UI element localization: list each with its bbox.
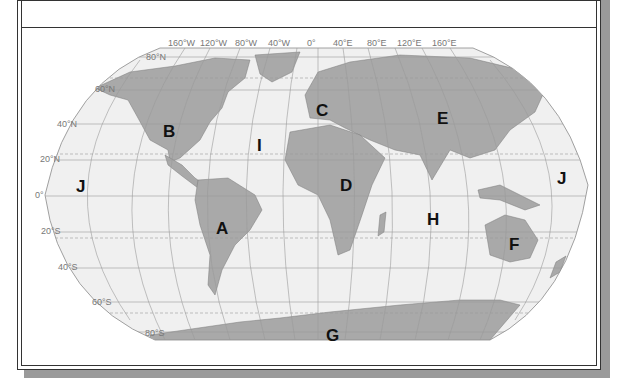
lat-label: 0° xyxy=(35,190,44,200)
lon-label: 0° xyxy=(307,38,316,48)
lat-label: 80°S xyxy=(145,328,165,338)
lon-label: 80°W xyxy=(235,38,258,48)
lat-label: 40°S xyxy=(58,262,78,272)
lat-label: 60°S xyxy=(92,297,112,307)
world-map: 160°W 120°W 80°W 40°W 0° 40°E 80°E 120°E… xyxy=(22,28,596,366)
region-label-a: A xyxy=(216,219,228,238)
region-label-f: F xyxy=(509,235,519,254)
lat-label: 40°N xyxy=(57,119,77,129)
region-label-h: H xyxy=(427,210,439,229)
lon-label: 120°E xyxy=(397,38,422,48)
region-label-d: D xyxy=(340,176,352,195)
lon-label: 80°E xyxy=(367,38,387,48)
region-label-j-west: J xyxy=(76,177,85,196)
lat-label: 60°N xyxy=(95,84,115,94)
region-label-b: B xyxy=(163,122,175,141)
lon-label: 160°W xyxy=(168,38,196,48)
lat-label: 20°S xyxy=(41,226,61,236)
region-label-e: E xyxy=(437,109,448,128)
lat-label: 20°N xyxy=(40,154,60,164)
lon-label: 120°W xyxy=(200,38,228,48)
region-label-c: C xyxy=(316,101,328,120)
region-label-i: I xyxy=(257,136,262,155)
region-label-j-east: J xyxy=(557,169,566,188)
lat-label: 80°N xyxy=(146,52,166,62)
lon-label: 40°E xyxy=(333,38,353,48)
caption-area xyxy=(22,0,596,28)
region-label-g: G xyxy=(326,326,339,345)
lon-label: 40°W xyxy=(268,38,291,48)
longitude-labels: 160°W 120°W 80°W 40°W 0° 40°E 80°E 120°E… xyxy=(168,38,457,48)
lon-label: 160°E xyxy=(432,38,457,48)
